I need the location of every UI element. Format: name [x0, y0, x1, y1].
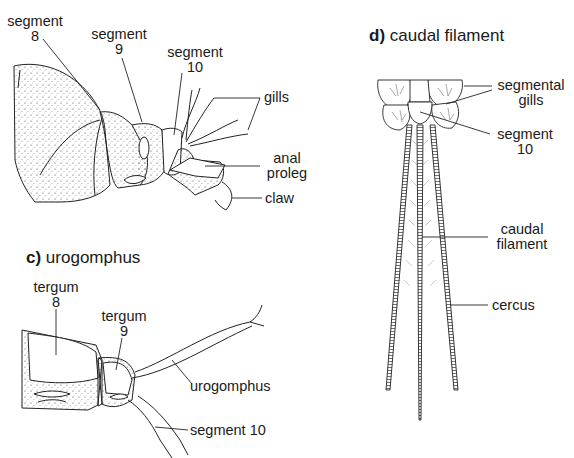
label-tergum-9: tergum 9 [96, 309, 152, 339]
diagram-artwork [0, 0, 574, 458]
label-segment-10-d: segment 10 [490, 127, 560, 157]
label-cercus: cercus [492, 298, 535, 313]
label-anal-proleg: anal proleg [262, 151, 312, 181]
label-tergum-8: tergum 8 [28, 280, 84, 310]
label-urogomphus: urogomphus [190, 379, 271, 394]
label-caudal-filament: caudal filament [490, 222, 554, 252]
label-claw: claw [265, 191, 294, 206]
label-segment-10-c: segment 10 [190, 423, 266, 438]
panel-c-title: c) urogomphus [26, 248, 140, 268]
label-segment-10: segment 10 [162, 45, 228, 75]
caudal-filament-illustration [378, 80, 463, 420]
label-gills: gills [264, 90, 289, 105]
label-segment-9: segment 9 [86, 27, 152, 57]
panel-d-title: d) caudal filament [369, 26, 504, 46]
label-segmental-gills: segmental gills [491, 78, 571, 108]
label-segment-8: segment 8 [2, 14, 68, 44]
